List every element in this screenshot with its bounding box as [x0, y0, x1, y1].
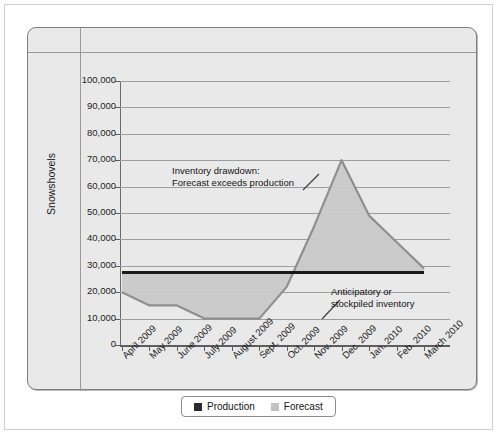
chart-legend: ProductionForecast — [181, 396, 336, 417]
y-tick-label: 80,000 — [46, 127, 116, 138]
y-tick-label: 60,000 — [46, 180, 116, 191]
panel-top-divider — [28, 52, 478, 53]
y-tick-label: 90,000 — [46, 100, 116, 111]
annotation-drawdown-line1: Inventory drawdown: — [172, 165, 294, 177]
legend-item: Forecast — [271, 401, 323, 412]
y-tick-label: 40,000 — [46, 232, 116, 243]
leader-line-drawdown — [303, 174, 319, 190]
page-frame: Snowshovels 010,00020,00030,00040,00050,… — [4, 4, 493, 430]
y-tick-label: 50,000 — [46, 206, 116, 217]
annotation-stockpile-line2: stockpiled inventory — [331, 298, 414, 310]
annotation-inventory-drawdown: Inventory drawdown: Forecast exceeds pro… — [172, 165, 294, 189]
legend-swatch-icon — [271, 403, 279, 411]
y-tick-label: 20,000 — [46, 285, 116, 296]
y-tick-label: 30,000 — [46, 259, 116, 270]
y-tick-label: 10,000 — [46, 312, 116, 323]
chart-panel: Snowshovels 010,00020,00030,00040,00050,… — [27, 27, 477, 390]
annotation-anticipatory-inventory: Anticipatory or stockpiled inventory — [331, 286, 414, 310]
annotation-stockpile-line1: Anticipatory or — [331, 286, 414, 298]
annotation-drawdown-line2: Forecast exceeds production — [172, 177, 294, 189]
y-tick-label: 0 — [46, 338, 116, 349]
plot-area: 010,00020,00030,00040,00050,00060,00070,… — [120, 81, 450, 345]
legend-swatch-icon — [194, 403, 202, 411]
y-tick-label: 70,000 — [46, 153, 116, 164]
legend-label: Production — [207, 401, 255, 412]
legend-item: Production — [194, 401, 255, 412]
legend-label: Forecast — [284, 401, 323, 412]
y-tick-label: 100,000 — [46, 74, 116, 85]
